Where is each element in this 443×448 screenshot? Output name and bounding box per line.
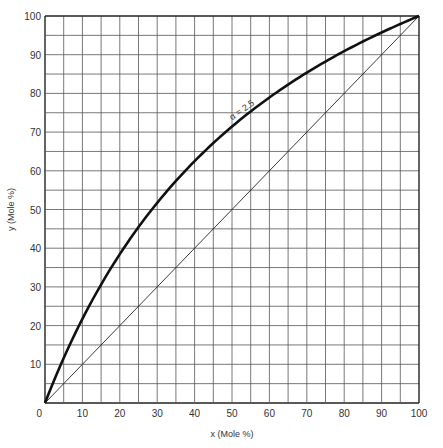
svg-text:40: 40	[30, 243, 42, 254]
svg-text:100: 100	[24, 11, 41, 22]
svg-text:70: 70	[30, 127, 42, 138]
svg-text:20: 20	[114, 408, 126, 419]
svg-text:80: 80	[30, 88, 42, 99]
svg-text:60: 60	[30, 166, 42, 177]
svg-text:0: 0	[36, 408, 42, 419]
svg-text:40: 40	[189, 408, 201, 419]
svg-text:50: 50	[30, 205, 42, 216]
svg-text:20: 20	[30, 321, 42, 332]
tick-labels: 0102030405060708090100102030405060708090…	[24, 11, 427, 419]
svg-text:30: 30	[30, 282, 42, 293]
svg-text:70: 70	[301, 408, 313, 419]
svg-text:100: 100	[411, 408, 428, 419]
svg-text:50: 50	[226, 408, 238, 419]
vle-chart: 0102030405060708090100102030405060708090…	[0, 0, 443, 448]
svg-text:90: 90	[30, 50, 42, 61]
svg-text:80: 80	[339, 408, 351, 419]
svg-text:10: 10	[30, 359, 42, 370]
svg-text:30: 30	[152, 408, 164, 419]
y-axis-label: y (Mole %)	[6, 188, 16, 231]
svg-text:90: 90	[376, 408, 388, 419]
x-axis-label: x (Mole %)	[210, 429, 253, 439]
svg-text:10: 10	[77, 408, 89, 419]
svg-text:60: 60	[264, 408, 276, 419]
